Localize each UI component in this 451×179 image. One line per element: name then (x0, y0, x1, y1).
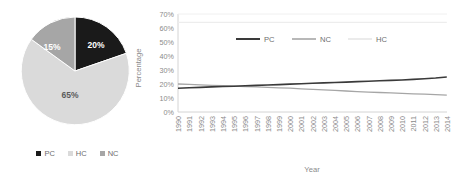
pie-chart: 20% 65% 15% (18, 14, 132, 128)
x-tick-label: 2005 (342, 116, 351, 132)
x-tick-label: 1991 (185, 116, 194, 132)
x-tick-label: 2013 (432, 116, 441, 132)
x-tick-label: 1990 (174, 116, 183, 132)
line-chart-svg: Percentage 70% 60% 50% 40% 30% 20% 10% 0… (132, 0, 451, 179)
legend-swatch-icon-nc (100, 151, 105, 156)
pie-slice-label-hc: 65% (61, 90, 78, 100)
pie-slice-label-nc: 15% (43, 42, 60, 52)
line-legend-label-hc[interactable]: HC (376, 35, 387, 44)
pie-legend-item-pc[interactable]: PC (36, 150, 54, 158)
y-tick-label: 40% (160, 52, 175, 61)
x-tick-label: 2012 (421, 116, 430, 132)
y-tick-label: 60% (160, 24, 175, 33)
y-tick-label: 20% (160, 80, 175, 89)
legend-swatch-icon-pc (36, 151, 41, 156)
y-tick-label: 10% (160, 94, 175, 103)
x-tick-label: 1999 (275, 116, 284, 132)
x-tick-label: 1997 (253, 116, 262, 132)
x-tick-label: 1993 (208, 116, 217, 132)
pie-chart-panel: 20% 65% 15% PC HC NC (0, 0, 150, 179)
x-tick-label: 2002 (309, 116, 318, 132)
x-tick-label: 2010 (398, 116, 407, 132)
x-tick-label: 2007 (365, 116, 374, 132)
x-tick-label: 2009 (387, 116, 396, 132)
x-tick-label: 2000 (286, 116, 295, 132)
y-axis-ticks: 70% 60% 50% 40% 30% 20% 10% 0% (160, 10, 175, 117)
legend-swatch-icon-hc (68, 151, 73, 156)
line-legend-label-nc[interactable]: NC (320, 35, 331, 44)
pie-legend: PC HC NC (10, 150, 145, 158)
x-tick-label: 1995 (230, 116, 239, 132)
pie-legend-label-hc: HC (76, 150, 87, 158)
two-panel-figure: 20% 65% 15% PC HC NC Percentage (0, 0, 451, 179)
x-tick-label: 2003 (320, 116, 329, 132)
x-tick-label: 2011 (409, 116, 418, 131)
x-tick-label: 1998 (264, 116, 273, 132)
y-tick-label: 0% (164, 108, 175, 117)
x-tick-label: 1994 (219, 116, 228, 132)
x-axis-ticks: 1990199119921993199419951996199719981999… (174, 116, 451, 132)
series-line-pc[interactable] (178, 77, 447, 88)
x-tick-label: 2008 (376, 116, 385, 132)
y-tick-label: 70% (160, 10, 175, 19)
x-tick-label: 1992 (197, 116, 206, 132)
x-tick-label: 1996 (241, 116, 250, 132)
x-tick-label: 2004 (331, 116, 340, 132)
line-chart-panel: Percentage 70% 60% 50% 40% 30% 20% 10% 0… (132, 0, 451, 179)
series-line-nc[interactable] (178, 84, 447, 95)
y-tick-label: 50% (160, 38, 175, 47)
pie-legend-label-pc: PC (44, 150, 54, 158)
pie-legend-item-nc[interactable]: NC (100, 150, 119, 158)
pie-chart-svg: 20% 65% 15% (18, 14, 132, 128)
y-tick-label: 30% (160, 66, 175, 75)
pie-slice-label-pc: 20% (87, 40, 104, 50)
y-axis-title: Percentage (134, 49, 143, 88)
x-axis-title: Year (304, 165, 320, 174)
line-legend-label-pc[interactable]: PC (264, 35, 275, 44)
x-tick-label: 2014 (443, 116, 451, 132)
pie-legend-item-hc[interactable]: HC (68, 150, 87, 158)
pie-legend-label-nc: NC (108, 150, 119, 158)
x-tick-label: 2001 (297, 116, 306, 132)
x-tick-label: 2006 (353, 116, 362, 132)
line-legend: PC NC HC (236, 35, 387, 44)
